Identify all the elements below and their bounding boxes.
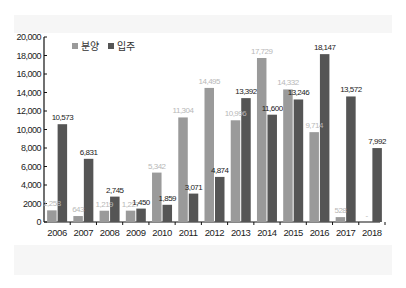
y-tick-label: 14,000 [16, 88, 41, 98]
y-tick-label: 8,000 [21, 143, 42, 153]
x-tick-label: 2016 [310, 227, 330, 238]
bars: 1,25810,5736436,8311,2192,7451,2271,4505… [43, 43, 387, 222]
y-tick-label: 18,000 [16, 51, 41, 61]
value-label-bunyang: 5,342 [148, 162, 167, 171]
value-label-ipju: 2,745 [106, 186, 125, 195]
y-axis: 020004,0006,0008,00010,00012,00014,00016… [16, 32, 47, 227]
legend-swatch-icon [108, 43, 114, 49]
bar-bunyang [231, 120, 241, 222]
value-label-bunyang: 528 [334, 206, 347, 215]
bar-ipju [189, 194, 199, 222]
value-label-bunyang: 643 [72, 205, 85, 214]
x-tick-label: 2007 [74, 227, 94, 238]
value-label-bunyang: - [366, 211, 369, 220]
bar-chart: 020004,0006,0008,00010,00012,00014,00016… [0, 0, 406, 288]
bar-ipju [346, 96, 356, 222]
value-label-ipju: 7,992 [368, 137, 387, 146]
x-tick-label: 2009 [126, 227, 146, 238]
bar-ipju [267, 115, 277, 222]
x-tick-label: 2014 [257, 227, 277, 238]
x-tick-label: 2006 [47, 227, 67, 238]
value-label-bunyang: 11,304 [173, 106, 195, 115]
bar-bunyang [178, 117, 188, 222]
legend-label: 입주 [117, 40, 135, 52]
x-tick-label: 2017 [336, 227, 356, 238]
x-axis: 2006200720082009201020112012201320142015… [44, 222, 385, 238]
value-label-bunyang: 14,495 [199, 77, 222, 86]
bar-ipju [84, 159, 94, 222]
value-label-bunyang: 1,219 [96, 200, 115, 209]
bar-ipju [215, 177, 225, 222]
x-tick-label: 2011 [179, 227, 198, 238]
x-tick-label: 2008 [100, 227, 120, 238]
x-tick-label: 2015 [283, 227, 303, 238]
legend-label: 분양 [81, 41, 99, 52]
y-tick-label: 12,000 [16, 106, 41, 116]
value-label-bunyang: 9,714 [305, 121, 324, 130]
bar-bunyang [309, 132, 319, 222]
legend: 분양입주 [72, 40, 135, 52]
bar-ipju [163, 205, 173, 222]
bar-bunyang [283, 89, 293, 222]
value-label-bunyang: 17,729 [251, 47, 274, 56]
value-label-ipju: 11,600 [262, 104, 284, 113]
x-tick-label: 2012 [205, 227, 225, 238]
value-label-ipju: 10,573 [52, 113, 75, 122]
bar-ipju [136, 209, 146, 222]
bar-bunyang [257, 58, 267, 222]
y-tick-label: 2000 [23, 199, 42, 209]
value-label-ipju: 13,246 [288, 88, 311, 97]
y-tick-label: 4,000 [21, 180, 42, 190]
value-label-bunyang: 1,258 [43, 199, 62, 208]
value-label-bunyang: 10,996 [225, 109, 248, 118]
value-label-ipju: 13,392 [235, 87, 258, 96]
value-label-ipju: 4,874 [211, 166, 230, 175]
y-tick-label: 16,000 [16, 69, 41, 79]
bar-ipju [372, 148, 382, 222]
x-tick-label: 2018 [362, 227, 382, 238]
y-tick-label: 20,000 [16, 32, 41, 42]
value-label-ipju: 6,831 [80, 148, 99, 157]
x-tick-label: 2010 [152, 227, 172, 238]
bar-bunyang [47, 210, 57, 222]
y-tick-label: 0 [36, 217, 41, 227]
value-label-ipju: 1,859 [159, 194, 178, 203]
y-tick-label: 10,000 [16, 125, 41, 135]
value-label-ipju: 18,147 [314, 43, 337, 52]
bar-bunyang [205, 88, 215, 222]
bar-bunyang [336, 217, 346, 222]
value-label-ipju: 13,572 [340, 85, 363, 94]
bar-ipju [320, 54, 330, 222]
y-tick-label: 6,000 [21, 162, 42, 172]
legend-swatch-icon [72, 43, 78, 49]
x-tick-label: 2013 [231, 227, 251, 238]
value-label-ipju: 1,450 [132, 198, 151, 207]
value-label-ipju: 3,071 [185, 183, 204, 192]
value-label-bunyang: 14,332 [277, 78, 300, 87]
bar-bunyang [100, 211, 110, 222]
bar-bunyang [126, 211, 136, 222]
bar-bunyang [73, 216, 83, 222]
bar-ipju [294, 99, 304, 222]
